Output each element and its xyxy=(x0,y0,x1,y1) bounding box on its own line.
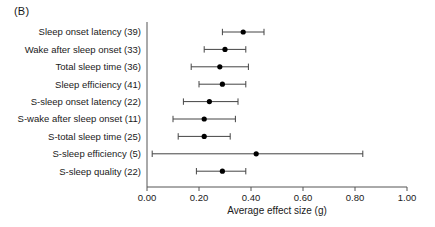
effect-size-point xyxy=(254,151,259,156)
effect-size-point xyxy=(202,116,207,121)
forest-row xyxy=(152,151,363,157)
category-label: S-wake after sleep onset (11) xyxy=(18,113,141,124)
forest-row xyxy=(183,98,238,104)
category-label: S-sleep onset latency (22) xyxy=(31,96,141,107)
forest-row xyxy=(199,81,246,87)
category-label: Sleep efficiency (41) xyxy=(55,79,141,90)
category-label: S-sleep quality (22) xyxy=(59,166,141,177)
effect-size-point xyxy=(220,82,225,87)
effect-size-point xyxy=(217,64,222,69)
forest-plot: Sleep onset latency (39)Wake after sleep… xyxy=(0,0,435,227)
category-labels: Sleep onset latency (39)Wake after sleep… xyxy=(18,26,141,176)
x-axis-title: Average effect size (g) xyxy=(227,205,327,216)
forest-row xyxy=(178,133,230,139)
category-label: S-total sleep time (25) xyxy=(48,131,141,142)
forest-rows xyxy=(152,29,363,175)
forest-row xyxy=(191,64,248,70)
forest-row xyxy=(196,168,245,174)
effect-size-point xyxy=(220,169,225,174)
effect-size-point xyxy=(202,134,207,139)
category-label: Wake after sleep onset (33) xyxy=(25,44,141,55)
x-tick-label: 0.00 xyxy=(138,192,157,203)
x-tick-label: 0.80 xyxy=(346,192,365,203)
category-label: Total sleep time (36) xyxy=(55,61,141,72)
x-axis-ticks: 0.000.200.400.600.801.00 xyxy=(138,187,417,203)
forest-row xyxy=(204,46,246,52)
category-label: Sleep onset latency (39) xyxy=(39,26,141,37)
forest-row xyxy=(222,29,264,35)
x-tick-label: 0.60 xyxy=(294,192,313,203)
category-label: S-sleep efficiency (5) xyxy=(52,148,141,159)
x-tick-label: 1.00 xyxy=(398,192,417,203)
effect-size-point xyxy=(222,47,227,52)
effect-size-point xyxy=(241,29,246,34)
x-tick-label: 0.20 xyxy=(190,192,209,203)
forest-row xyxy=(173,116,235,122)
x-tick-label: 0.40 xyxy=(242,192,261,203)
effect-size-point xyxy=(207,99,212,104)
